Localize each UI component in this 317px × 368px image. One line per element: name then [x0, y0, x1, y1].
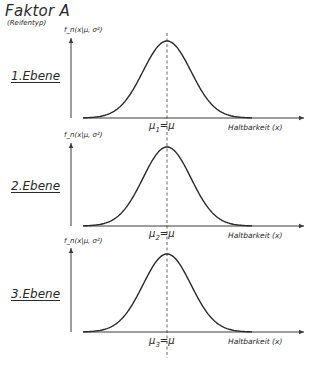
normal-density-curve: [83, 147, 252, 226]
normal-density-curve: [83, 41, 252, 118]
density-plot: [0, 0, 317, 368]
panel-1: [71, 38, 304, 118]
panel-3: [71, 248, 304, 332]
normal-density-curve: [83, 254, 252, 332]
panel-2: [71, 143, 304, 226]
